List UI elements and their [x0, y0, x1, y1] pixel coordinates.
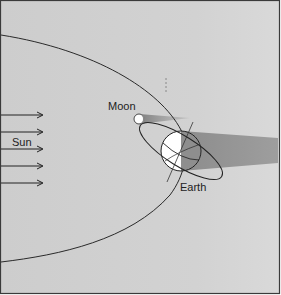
sun-label: Sun: [12, 137, 32, 148]
diagram-canvas: [0, 0, 281, 295]
earth-label: Earth: [180, 182, 206, 193]
moon: [134, 114, 145, 124]
earth-moon-orbit-diagram: [0, 0, 281, 295]
moon-label: Moon: [108, 101, 136, 112]
